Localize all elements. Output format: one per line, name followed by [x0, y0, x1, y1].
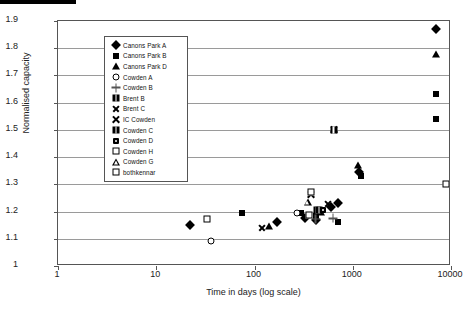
gridline	[58, 212, 449, 213]
open-circle-marker-icon	[207, 237, 214, 244]
y-tick-mark	[54, 212, 58, 213]
legend-label: Cowden B	[123, 84, 153, 91]
y-tick-label: 1.6	[0, 96, 18, 106]
y-tick-label: 1.8	[0, 41, 18, 51]
y-tick-label: 1	[0, 259, 18, 269]
x-tick-label: 1000	[342, 269, 362, 279]
legend-item: Brent C	[109, 104, 184, 115]
chart-legend: Canons Park ACanons Park BCanons Park DC…	[104, 36, 188, 182]
y-axis-label: Normalised capacity	[21, 23, 31, 163]
triangle-marker-icon	[432, 50, 440, 57]
open-square-marker-icon	[113, 169, 120, 176]
legend-label: Cowden A	[123, 74, 153, 81]
scatter-chart: Normalised capacity Time in days (log sc…	[0, 0, 473, 316]
plus-marker-icon	[112, 83, 121, 92]
legend-marker	[109, 104, 123, 114]
legend-marker	[109, 146, 123, 156]
ex-marker-icon	[112, 105, 120, 113]
legend-item: Cowden G	[109, 157, 184, 168]
legend-item: Cowden B	[109, 82, 184, 93]
y-tick-label: 1.7	[0, 68, 18, 78]
y-tick-label: 1.1	[0, 232, 18, 242]
x-tick-label: 100	[246, 269, 261, 279]
open-circle-marker-icon	[113, 74, 120, 81]
legend-label: Brent C	[123, 105, 145, 112]
gridline	[58, 184, 449, 185]
y-tick-mark	[54, 157, 58, 158]
bold-ex-marker-icon	[112, 115, 121, 124]
x-tick-label: 10000	[437, 269, 462, 279]
y-tick-label: 1.5	[0, 123, 18, 133]
legend-marker	[109, 136, 123, 146]
legend-marker	[109, 157, 123, 167]
boxed-square-marker-icon	[113, 127, 120, 134]
legend-label: IC Cowden	[123, 116, 155, 123]
square-marker-icon	[433, 116, 439, 122]
triangle-marker-icon	[354, 161, 362, 168]
triangle-marker-icon	[265, 222, 273, 229]
legend-marker	[109, 167, 123, 177]
legend-label: Canons Park D	[123, 63, 167, 70]
open-square-marker-icon	[204, 216, 211, 223]
x-tick-label: 1	[54, 269, 59, 279]
plus-marker-icon	[329, 214, 338, 223]
y-tick-label: 1.9	[0, 14, 18, 24]
y-tick-mark	[54, 75, 58, 76]
square-marker-icon	[433, 91, 439, 97]
y-tick-mark	[54, 239, 58, 240]
legend-item: Cowden D	[109, 135, 184, 146]
legend-marker	[109, 61, 123, 71]
legend-item: Cowden H	[109, 146, 184, 157]
dot-square-marker-icon	[320, 207, 326, 213]
legend-item: bothkennar	[109, 167, 184, 178]
gridline	[58, 239, 449, 240]
diamond-marker-icon	[185, 220, 195, 230]
y-tick-label: 1.3	[0, 177, 18, 187]
y-tick-mark	[54, 103, 58, 104]
legend-item: Canons Park D	[109, 61, 184, 72]
x-tick-label: 10	[150, 269, 160, 279]
diamond-marker-icon	[111, 40, 121, 50]
legend-item: Canons Park B	[109, 51, 184, 62]
legend-label: Cowden H	[123, 148, 153, 155]
legend-marker	[109, 125, 123, 135]
legend-marker	[109, 40, 123, 50]
x-axis-label: Time in days (log scale)	[57, 287, 450, 297]
legend-label: bothkennar	[123, 169, 156, 176]
open-triangle-marker-icon	[304, 199, 312, 206]
square-marker-icon	[239, 210, 245, 216]
legend-label: Cowden D	[123, 137, 153, 144]
legend-marker	[109, 72, 123, 82]
legend-label: Cowden C	[123, 127, 153, 134]
legend-marker	[109, 83, 123, 93]
legend-item: Canons Park A	[109, 40, 184, 51]
y-tick-mark	[54, 21, 58, 22]
legend-item: Cowden C	[109, 125, 184, 136]
legend-marker	[109, 51, 123, 61]
square-marker-icon	[358, 173, 364, 179]
legend-marker	[109, 93, 123, 103]
legend-label: Canons Park A	[123, 42, 166, 49]
legend-item: Cowden A	[109, 72, 184, 83]
open-square-marker-icon	[306, 211, 313, 218]
y-tick-mark	[54, 48, 58, 49]
legend-item: IC Cowden	[109, 114, 184, 125]
boxed-square-marker-icon	[330, 126, 337, 133]
square-marker-icon	[113, 53, 119, 59]
y-tick-label: 1.2	[0, 205, 18, 215]
open-circle-marker-icon	[293, 209, 300, 216]
open-square-marker-icon	[113, 148, 120, 155]
boxed-square-marker-icon	[113, 95, 120, 102]
diamond-marker-icon	[272, 217, 282, 227]
legend-marker	[109, 114, 123, 124]
open-triangle-marker-icon	[112, 158, 120, 165]
diamond-marker-icon	[431, 24, 441, 34]
open-square-marker-icon	[442, 180, 449, 187]
legend-label: Cowden G	[123, 158, 154, 165]
y-tick-label: 1.4	[0, 150, 18, 160]
triangle-marker-icon	[112, 63, 120, 70]
open-square-marker-icon	[308, 188, 315, 195]
legend-label: Canons Park B	[123, 52, 167, 59]
y-tick-mark	[54, 130, 58, 131]
dot-square-marker-icon	[113, 138, 119, 144]
